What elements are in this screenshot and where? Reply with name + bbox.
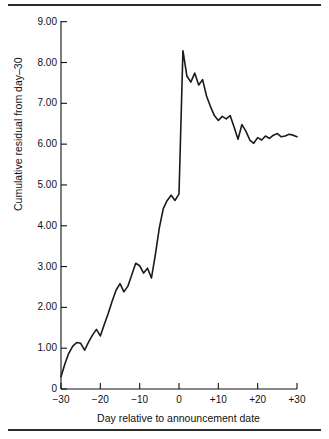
x-tick-label: 0 <box>176 395 182 405</box>
data-series-line <box>61 51 297 377</box>
y-tick-label: 1.00 <box>12 343 57 353</box>
x-tick-label: −30 <box>53 395 70 405</box>
x-tick-label: +10 <box>210 395 227 405</box>
x-axis-title: Day relative to announcement date <box>14 412 329 424</box>
y-tick-label: 4.00 <box>12 221 57 231</box>
y-ticks-group <box>61 22 67 389</box>
x-tick-label: +30 <box>289 395 306 405</box>
x-tick-label: +20 <box>249 395 266 405</box>
y-axis-title: Cumulative residual from day–30 <box>12 58 24 212</box>
y-tick-label: 2.00 <box>12 302 57 312</box>
y-tick-label: 3.00 <box>12 262 57 272</box>
figure-container: 01.002.003.004.005.006.007.008.009.00 −3… <box>0 0 329 439</box>
y-tick-label: 9.00 <box>12 17 57 27</box>
x-tick-label: −20 <box>92 395 109 405</box>
axes-group <box>61 21 297 389</box>
x-ticks-group <box>61 383 297 389</box>
y-tick-label: 0 <box>12 384 57 394</box>
x-tick-label: −10 <box>131 395 148 405</box>
